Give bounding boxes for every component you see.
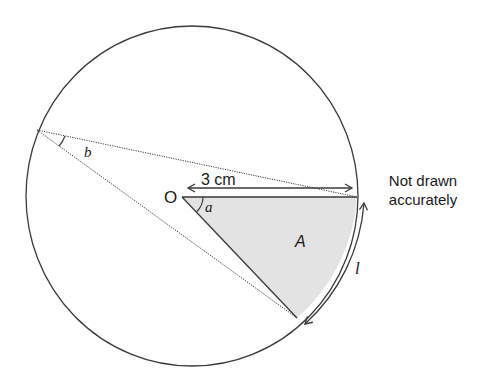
radius-label: 3 cm — [201, 171, 236, 188]
not-drawn-accurately-note: Not drawn accurately — [373, 171, 473, 209]
angle-a-label: a — [205, 199, 213, 215]
angle-b-arc — [59, 136, 65, 146]
sector-a — [182, 197, 357, 318]
angle-b-label: b — [84, 144, 92, 160]
sector-area-label: A — [294, 233, 306, 250]
arc-length-label: l — [355, 259, 360, 278]
note-line-1: Not drawn — [373, 171, 473, 190]
note-line-2: accurately — [373, 190, 473, 209]
chord-to-right — [37, 130, 357, 197]
circle — [26, 26, 358, 366]
centre-label: O — [164, 188, 177, 207]
